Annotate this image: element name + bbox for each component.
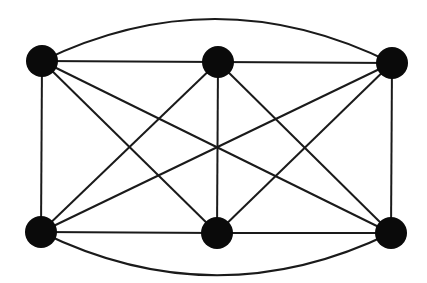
node-F: [375, 217, 407, 249]
node-A: [26, 45, 58, 77]
edge-A-B: [42, 61, 218, 62]
node-E: [201, 217, 233, 249]
edge-A-D: [41, 61, 42, 232]
edge-C-F: [391, 63, 392, 233]
node-C: [376, 47, 408, 79]
edge-D-E: [41, 232, 217, 233]
complete-graph-diagram: [0, 0, 427, 283]
edge-B-C: [218, 62, 392, 63]
node-B: [202, 46, 234, 78]
node-D: [25, 216, 57, 248]
